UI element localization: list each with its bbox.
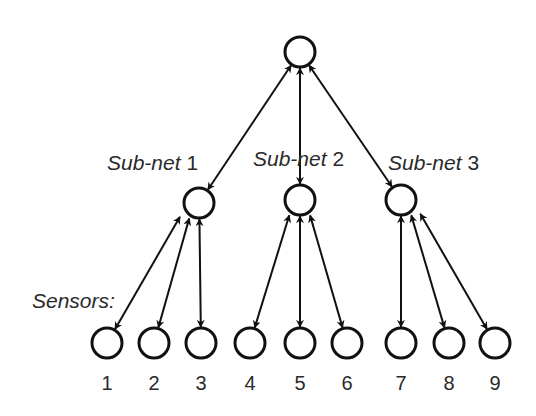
link-subnet-3-sensor-8 <box>411 215 444 327</box>
subnet-node-1 <box>184 188 214 218</box>
link-subnet-1-sensor-1 <box>115 217 180 329</box>
sensor-number-1: 1 <box>101 372 112 394</box>
sensor-number-6: 6 <box>341 372 352 394</box>
root-node <box>285 37 315 67</box>
sensor-number-8: 8 <box>443 372 454 394</box>
subnet-node-2 <box>285 185 315 215</box>
sensor-node-8 <box>434 328 464 358</box>
sensor-node-3 <box>186 328 216 358</box>
link-root-subnet-1 <box>208 65 291 189</box>
subnet-label-3: Sub-net 3 <box>388 151 479 174</box>
sensor-number-7: 7 <box>395 372 406 394</box>
sensor-node-6 <box>332 328 362 358</box>
network-hierarchy-diagram: Sub-net 1Sub-net 2Sub-net 3Sensors:12345… <box>0 0 536 416</box>
link-subnet-1-sensor-2 <box>158 218 189 327</box>
subnet-node-3 <box>386 185 416 215</box>
sensor-node-9 <box>480 328 510 358</box>
sensor-node-5 <box>285 328 315 358</box>
sensor-number-9: 9 <box>489 372 500 394</box>
sensor-node-2 <box>139 328 169 358</box>
sensor-node-4 <box>235 328 265 358</box>
link-subnet-1-sensor-3 <box>199 219 200 327</box>
link-subnet-3-sensor-9 <box>420 214 487 329</box>
sensor-node-1 <box>92 328 122 358</box>
sensor-number-5: 5 <box>294 372 305 394</box>
subnet-label-2: Sub-net 2 <box>253 147 344 170</box>
sensors-label: Sensors: <box>32 289 115 312</box>
sensor-node-7 <box>386 328 416 358</box>
subnet-label-1: Sub-net 1 <box>107 151 198 174</box>
sensor-number-3: 3 <box>195 372 206 394</box>
sensor-number-2: 2 <box>148 372 159 394</box>
link-subnet-2-sensor-4 <box>255 215 290 327</box>
sensor-number-4: 4 <box>244 372 255 394</box>
link-subnet-2-sensor-6 <box>310 215 342 327</box>
